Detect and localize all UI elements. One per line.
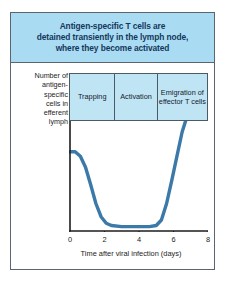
y-axis-label-line-3: specific xyxy=(13,90,68,99)
y-axis-label-line-6: lymph xyxy=(13,117,68,126)
plot-area xyxy=(69,121,208,232)
x-axis-tick-labels: 02468 xyxy=(69,235,208,247)
figure-title: Antigen-specific T cells are detained tr… xyxy=(31,21,195,55)
phase-header-row: Trapping Activation Emigration of effect… xyxy=(69,73,208,121)
phase-label-trapping: Trapping xyxy=(70,74,114,120)
figure-title-banner: Antigen-specific T cells are detained tr… xyxy=(11,13,214,63)
x-axis-tick-label: 8 xyxy=(200,235,216,244)
x-axis-tick-label: 2 xyxy=(97,235,113,244)
x-axis-title: Time after viral infection (days) xyxy=(51,249,211,258)
x-axis-tick-label: 0 xyxy=(62,235,78,244)
phase-label-emigration: Emigration of effector T cells xyxy=(157,74,207,120)
title-line-3: where they become activated xyxy=(37,43,189,54)
y-axis-label: Number of antigen- specific cells in eff… xyxy=(13,71,68,127)
y-axis-label-line-1: Number of xyxy=(13,71,68,80)
y-axis-label-line-5: efferent xyxy=(13,108,68,117)
data-series-curve xyxy=(70,121,186,227)
y-axis-label-line-2: antigen- xyxy=(13,80,68,89)
x-axis-tick-label: 4 xyxy=(131,235,147,244)
phase-label-activation: Activation xyxy=(114,74,156,120)
title-line-2: detained transiently in the lymph node, xyxy=(37,32,189,43)
figure-container: Antigen-specific T cells are detained tr… xyxy=(10,12,215,270)
title-line-1: Antigen-specific T cells are xyxy=(37,21,189,32)
line-chart-svg xyxy=(69,121,208,232)
x-axis-tick-label: 6 xyxy=(166,235,182,244)
y-axis-label-line-4: cells in xyxy=(13,99,68,108)
